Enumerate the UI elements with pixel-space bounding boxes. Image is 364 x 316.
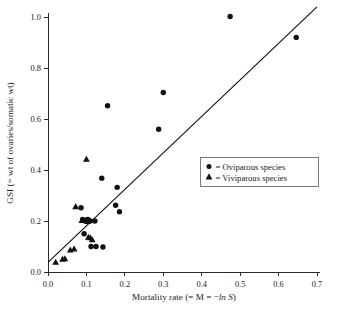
x-tick-label: 0.0: [43, 280, 53, 289]
x-tick-label: 0.6: [273, 280, 283, 289]
series-oviparous-points: [78, 14, 299, 250]
data-point-oviparous: [93, 244, 98, 249]
x-tick-label: 0.7: [312, 280, 322, 289]
x-axis-title: Mortality rate (= M = −ln S): [132, 292, 236, 302]
y-tick-label: 0.0: [31, 268, 41, 277]
x-axis-title-italic: ln S: [219, 292, 233, 302]
axes-group: [48, 13, 320, 272]
y-tick-label: 0.8: [31, 64, 41, 73]
x-tick-label: 0.1: [81, 280, 91, 289]
data-point-oviparous: [92, 218, 97, 223]
y-axis-title: GSI (= wt of ovaries/somatic wt): [5, 82, 15, 203]
x-axis-tick-labels: 0.00.10.20.30.40.50.60.7: [43, 280, 322, 289]
data-point-oviparous: [99, 175, 104, 180]
x-tick-label: 0.2: [120, 280, 130, 289]
x-tick-label: 0.4: [196, 280, 207, 289]
plot-canvas: 0.00.10.20.30.40.50.60.7 0.00.20.40.60.8…: [0, 0, 364, 316]
y-axis-tick-labels: 0.00.20.40.60.81.0: [31, 13, 42, 277]
y-tick-label: 0.4: [31, 166, 42, 175]
data-point-viviparous: [83, 156, 90, 162]
legend-circle-marker: [207, 164, 212, 169]
data-point-oviparous: [227, 14, 232, 19]
scatter-plot-figure: 0.00.10.20.30.40.50.60.7 0.00.20.40.60.8…: [0, 0, 364, 316]
legend-label-viviparous: = Viviparous species: [216, 173, 288, 183]
x-tick-label: 0.5: [235, 280, 245, 289]
data-point-oviparous: [113, 202, 118, 207]
y-tick-label: 0.6: [31, 115, 41, 124]
data-point-oviparous: [78, 205, 83, 210]
data-point-oviparous: [156, 127, 161, 132]
data-point-oviparous: [100, 244, 105, 249]
y-tick-label: 0.2: [31, 217, 41, 226]
data-point-oviparous: [161, 90, 166, 95]
data-point-oviparous: [105, 103, 110, 108]
y-tick-label: 1.0: [31, 13, 41, 22]
data-point-viviparous: [71, 245, 78, 251]
data-point-oviparous: [294, 35, 299, 40]
data-point-viviparous: [72, 203, 79, 209]
data-point-oviparous: [88, 244, 93, 249]
x-axis-title-part1: Mortality rate (= M = −: [132, 292, 219, 302]
data-point-viviparous: [52, 259, 59, 265]
series-viviparous-points: [52, 156, 95, 265]
data-point-oviparous: [81, 231, 86, 236]
x-tick-label: 0.3: [158, 280, 168, 289]
regression-line: [48, 7, 317, 263]
x-axis-ticks: [48, 272, 317, 276]
y-axis-ticks: [44, 17, 48, 272]
data-point-oviparous: [117, 209, 122, 214]
data-point-oviparous: [114, 185, 119, 190]
legend-label-oviparous: = Oviparous species: [216, 162, 286, 172]
legend: = Oviparous species = Viviparous species: [201, 158, 319, 187]
x-axis-title-part2: ): [233, 292, 236, 302]
